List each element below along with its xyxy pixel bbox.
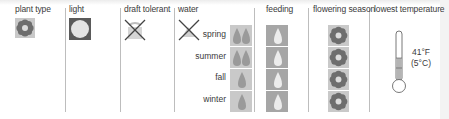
flower-icon: [328, 91, 349, 112]
flower-icon: [328, 47, 349, 68]
column-divider: [369, 8, 370, 112]
feeding-drop-icon: [266, 91, 288, 112]
water-drop-1-icon: [230, 69, 252, 90]
column-divider: [174, 8, 175, 112]
water-drops-2-icon: [230, 25, 252, 46]
column-divider: [308, 8, 309, 112]
header-draft-tolerant: draft tolerant: [124, 4, 170, 14]
feeding-drop-icon: [266, 25, 288, 46]
right-edge: [440, 0, 449, 119]
season-label-spring: spring: [176, 29, 226, 39]
feeding-drop-icon: [266, 47, 288, 68]
sun-icon: [69, 18, 91, 40]
season-label-winter: winter: [176, 94, 226, 104]
header-light: light: [69, 4, 84, 14]
column-divider: [254, 8, 255, 112]
draft-crossed-icon: [124, 19, 146, 41]
season-label-summer: summer: [176, 51, 226, 61]
temperature-fahrenheit: 41°F: [406, 47, 436, 58]
header-water: water: [178, 4, 198, 14]
header-flowering-season: flowering season: [313, 4, 375, 14]
feeding-drop-icon: [266, 69, 288, 90]
header-lowest-temperature: lowest temperature: [374, 4, 444, 14]
column-divider: [65, 8, 66, 112]
flower-icon: [328, 69, 349, 90]
temperature-celsius: (5°C): [406, 58, 436, 69]
water-drop-1-icon: [230, 91, 252, 112]
header-plant-type: plant type: [15, 4, 51, 14]
column-divider: [120, 8, 121, 112]
header-feeding: feeding: [266, 4, 293, 14]
flower-icon: [15, 18, 35, 38]
flower-icon: [328, 25, 349, 46]
season-label-fall: fall: [176, 72, 226, 82]
thermometer-icon: [391, 30, 407, 94]
water-drops-2-icon: [230, 47, 252, 68]
